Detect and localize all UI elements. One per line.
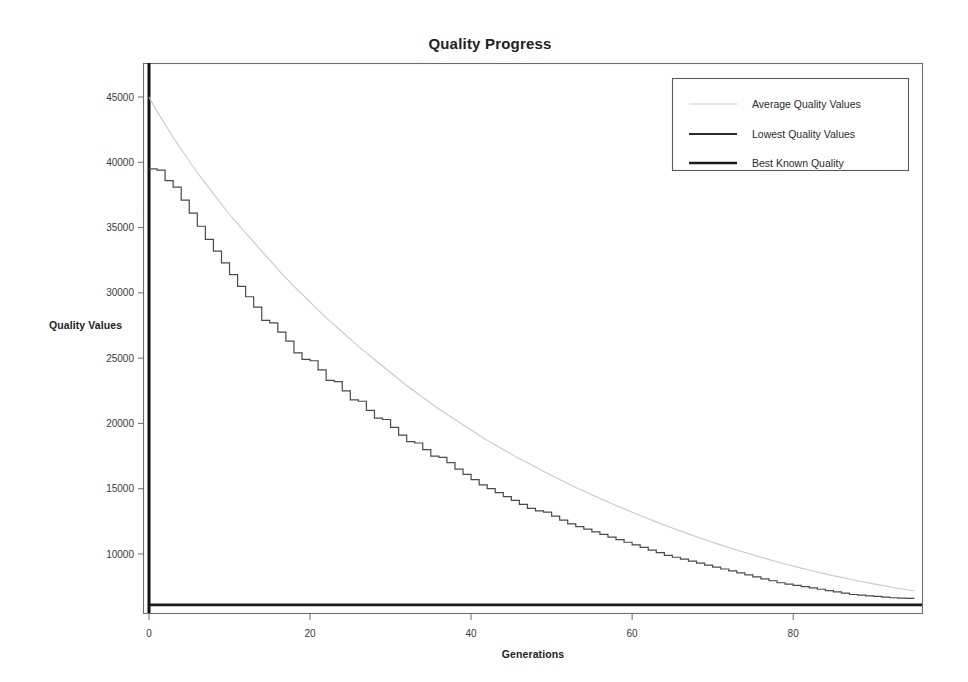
y-tick-label: 10000: [106, 549, 134, 560]
quality-progress-chart: Quality Progress 10000150002000025000300…: [0, 0, 968, 682]
y-tick-label: 35000: [106, 222, 134, 233]
chart-legend: Average Quality Values Lowest Quality Va…: [673, 79, 909, 171]
x-axis-title: Generations: [502, 648, 564, 660]
x-tick-label: 40: [466, 628, 478, 639]
y-tick-label: 30000: [106, 287, 134, 298]
x-tick-label: 0: [146, 628, 152, 639]
y-tick-label: 15000: [106, 483, 134, 494]
legend-label-best-known-quality: Best Known Quality: [752, 157, 844, 169]
y-tick-label: 40000: [106, 157, 134, 168]
legend-label-lowest-quality-values: Lowest Quality Values: [752, 128, 855, 140]
page-title: Quality Progress: [428, 35, 551, 52]
x-tick-label: 20: [304, 628, 316, 639]
x-tick-label: 60: [627, 628, 639, 639]
y-tick-label: 25000: [106, 353, 134, 364]
y-tick-label: 20000: [106, 418, 134, 429]
legend-label-average-quality-values: Average Quality Values: [752, 98, 861, 110]
x-tick-label: 80: [788, 628, 800, 639]
y-axis-title: Quality Values: [49, 319, 122, 331]
y-tick-label: 45000: [106, 92, 134, 103]
